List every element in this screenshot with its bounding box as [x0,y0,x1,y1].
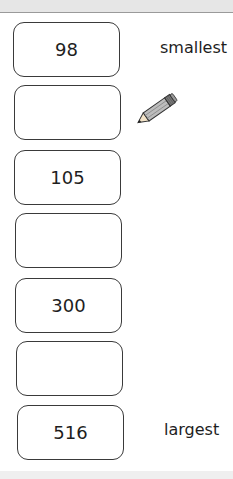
number-box-3: 105 [14,150,121,205]
number-box-7: 516 [17,405,124,460]
smallest-label: smallest [160,38,227,57]
bottom-edge [0,471,233,479]
number-box-2-blank[interactable] [14,85,121,140]
largest-label: largest [164,420,219,439]
box-value: 300 [51,295,85,316]
number-box-6-blank[interactable] [16,341,123,396]
number-box-5: 300 [15,278,122,333]
number-box-1: 98 [13,22,120,77]
box-value: 98 [55,39,78,60]
top-edge [0,0,233,13]
box-value: 516 [53,422,87,443]
box-value: 105 [50,167,84,188]
number-box-4-blank[interactable] [15,213,122,268]
pencil-icon [130,90,182,130]
